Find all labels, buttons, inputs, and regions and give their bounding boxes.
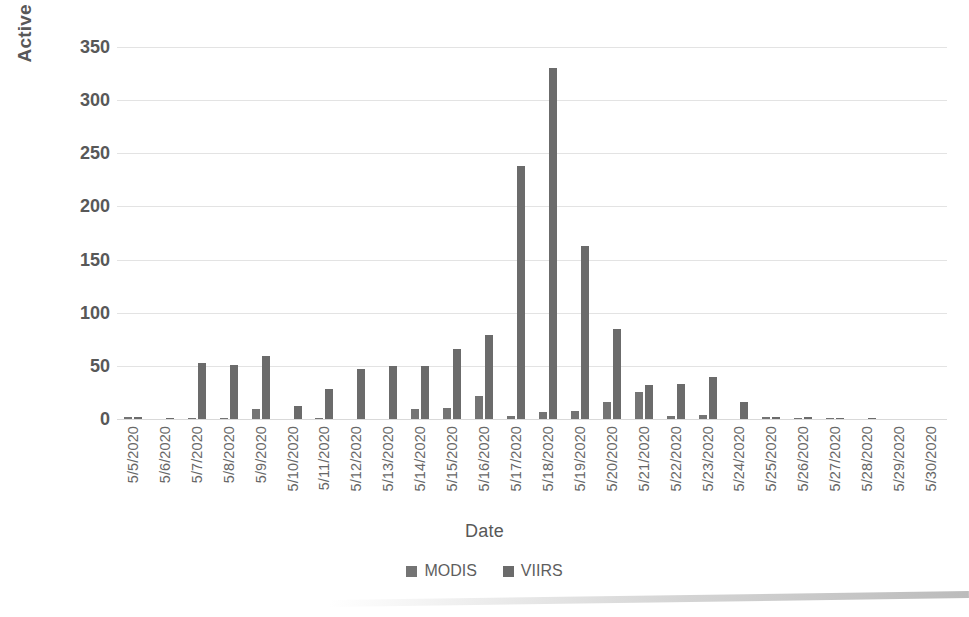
x-tick-label-cell: 5/26/2020	[787, 424, 819, 519]
bar-modis[interactable]	[603, 402, 611, 419]
bar-group	[117, 47, 149, 419]
x-tick-label: 5/17/2020	[508, 426, 524, 491]
bar-viirs[interactable]	[677, 384, 685, 419]
bar-viirs[interactable]	[198, 363, 206, 419]
x-tick-label-cell: 5/10/2020	[277, 424, 309, 519]
y-tick-label: 50	[90, 355, 110, 376]
y-tick-label: 100	[80, 302, 110, 323]
x-tick-label: 5/6/2020	[157, 426, 173, 483]
x-tick-label: 5/16/2020	[476, 426, 492, 491]
x-axis-line	[117, 419, 947, 420]
x-tick-label-cell: 5/6/2020	[149, 424, 181, 519]
bar-group	[277, 47, 309, 419]
x-tick-label: 5/15/2020	[444, 426, 460, 491]
x-tick-label-cell: 5/28/2020	[851, 424, 883, 519]
x-tick-label: 5/22/2020	[668, 426, 684, 491]
x-tick-label: 5/29/2020	[891, 426, 907, 491]
x-tick-label: 5/11/2020	[316, 426, 332, 490]
bar-modis[interactable]	[411, 409, 419, 419]
x-tick-label-cell: 5/19/2020	[564, 424, 596, 519]
bar-viirs[interactable]	[740, 402, 748, 419]
bar-group	[787, 47, 819, 419]
bar-viirs[interactable]	[453, 349, 461, 419]
bar-modis[interactable]	[539, 412, 547, 419]
x-tick-label: 5/12/2020	[348, 426, 364, 491]
x-tick-label-cell: 5/23/2020	[692, 424, 724, 519]
bar-groups	[117, 47, 947, 419]
bar-viirs[interactable]	[325, 389, 333, 419]
y-axis-tick-labels: 050100150200250300350	[55, 47, 110, 419]
legend-label: VIIRS	[521, 562, 563, 580]
x-tick-label-cell: 5/22/2020	[660, 424, 692, 519]
bar-group	[692, 47, 724, 419]
bar-group	[755, 47, 787, 419]
x-tick-label-cell: 5/8/2020	[213, 424, 245, 519]
x-tick-label-cell: 5/24/2020	[724, 424, 756, 519]
x-tick-label-cell: 5/18/2020	[532, 424, 564, 519]
bar-viirs[interactable]	[389, 366, 397, 419]
x-tick-label-cell: 5/12/2020	[340, 424, 372, 519]
bar-modis[interactable]	[571, 411, 579, 420]
bar-group	[851, 47, 883, 419]
bar-viirs[interactable]	[230, 365, 238, 419]
y-tick-label: 150	[80, 249, 110, 270]
bar-viirs[interactable]	[294, 406, 302, 419]
x-axis-tick-labels: 5/5/20205/6/20205/7/20205/8/20205/9/2020…	[117, 424, 947, 519]
x-tick-label: 5/9/2020	[253, 426, 269, 483]
y-tick-label: 250	[80, 143, 110, 164]
bar-viirs[interactable]	[613, 329, 621, 419]
bar-group	[660, 47, 692, 419]
bar-group	[596, 47, 628, 419]
x-tick-label-cell: 5/29/2020	[883, 424, 915, 519]
bar-viirs[interactable]	[581, 246, 589, 419]
bar-viirs[interactable]	[645, 385, 653, 419]
bar-group	[181, 47, 213, 419]
bar-group	[340, 47, 372, 419]
y-tick-label: 200	[80, 196, 110, 217]
bar-group	[468, 47, 500, 419]
x-tick-label-cell: 5/20/2020	[596, 424, 628, 519]
x-tick-label: 5/7/2020	[189, 426, 205, 483]
bar-modis[interactable]	[443, 408, 451, 419]
bar-group	[883, 47, 915, 419]
bar-modis[interactable]	[475, 396, 483, 419]
bar-group	[724, 47, 756, 419]
y-tick-label: 0	[100, 409, 110, 430]
bar-group	[500, 47, 532, 419]
bar-modis[interactable]	[635, 392, 643, 419]
legend-swatch-icon	[406, 566, 417, 577]
x-tick-label: 5/8/2020	[221, 426, 237, 483]
x-axis-title: Date	[0, 521, 969, 542]
bar-group	[149, 47, 181, 419]
active-fires-bar-chart: Active fires 050100150200250300350 5/5/2…	[0, 0, 969, 617]
bar-group	[245, 47, 277, 419]
bar-viirs[interactable]	[517, 166, 525, 419]
legend-item-viirs[interactable]: VIIRS	[503, 562, 563, 580]
x-tick-label-cell: 5/13/2020	[372, 424, 404, 519]
x-tick-label: 5/18/2020	[540, 426, 556, 491]
y-tick-label: 300	[80, 90, 110, 111]
bar-viirs[interactable]	[357, 369, 365, 419]
x-tick-label-cell: 5/9/2020	[245, 424, 277, 519]
x-tick-label-cell: 5/25/2020	[755, 424, 787, 519]
bar-group	[628, 47, 660, 419]
scan-artifact	[330, 591, 969, 607]
y-axis-title: Active fires	[14, 0, 36, 120]
x-tick-label: 5/23/2020	[700, 426, 716, 491]
x-tick-label: 5/24/2020	[731, 426, 747, 491]
x-tick-label-cell: 5/17/2020	[500, 424, 532, 519]
x-tick-label: 5/5/2020	[125, 426, 141, 483]
bar-group	[404, 47, 436, 419]
x-tick-label-cell: 5/15/2020	[436, 424, 468, 519]
x-tick-label: 5/19/2020	[572, 426, 588, 491]
bar-modis[interactable]	[252, 409, 260, 419]
x-tick-label-cell: 5/5/2020	[117, 424, 149, 519]
bar-viirs[interactable]	[485, 335, 493, 419]
legend-item-modis[interactable]: MODIS	[406, 562, 476, 580]
bar-viirs[interactable]	[421, 366, 429, 419]
x-tick-label: 5/20/2020	[604, 426, 620, 491]
x-tick-label: 5/25/2020	[763, 426, 779, 491]
bar-viirs[interactable]	[262, 356, 270, 419]
bar-viirs[interactable]	[549, 68, 557, 419]
bar-viirs[interactable]	[709, 377, 717, 420]
